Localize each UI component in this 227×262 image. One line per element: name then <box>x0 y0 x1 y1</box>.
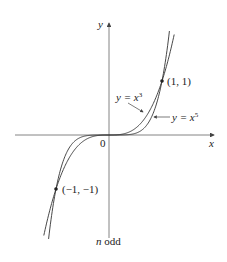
origin-label: 0 <box>100 137 106 149</box>
caption: n odd <box>96 235 121 247</box>
point-neg1-neg1 <box>54 187 58 191</box>
cubic-label-lhs: y = x <box>115 91 139 103</box>
cubic-label: y = x3 <box>115 91 143 103</box>
cubic-label-arrow <box>128 103 143 112</box>
figure-odd-power-functions: y x 0 (1, 1) (−1, −1) y = x3 y = x5 n od… <box>0 0 227 262</box>
point-1-1-label: (1, 1) <box>167 75 191 88</box>
caption-rest: odd <box>102 235 122 247</box>
x-axis-label: x <box>208 137 214 149</box>
quintic-label-exp: 5 <box>195 111 199 119</box>
plot-area: y x 0 (1, 1) (−1, −1) y = x3 y = x5 n od… <box>0 0 227 262</box>
quintic-label-lhs: y = x <box>171 111 195 123</box>
cubic-label-exp: 3 <box>139 91 143 99</box>
y-axis-label: y <box>97 18 103 30</box>
quintic-label: y = x5 <box>171 111 199 123</box>
point-1-1 <box>160 79 164 83</box>
point-neg1-neg1-label: (−1, −1) <box>62 183 99 196</box>
